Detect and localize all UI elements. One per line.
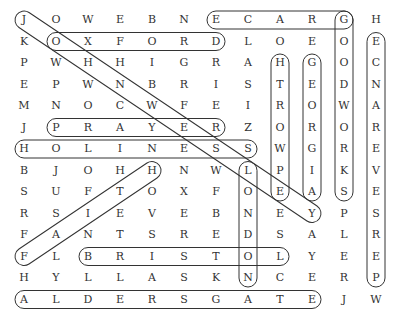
grid-cell[interactable]: E [300,76,324,94]
grid-cell[interactable]: S [204,140,228,158]
grid-cell[interactable]: R [140,291,164,309]
grid-cell[interactable]: W [140,97,164,115]
grid-cell[interactable]: R [300,11,324,29]
grid-cell[interactable]: O [268,119,292,137]
grid-cell[interactable]: F [108,33,132,51]
grid-cell[interactable]: E [108,11,132,29]
grid-cell[interactable]: K [204,269,228,287]
grid-cell[interactable]: A [364,97,388,115]
grid-cell[interactable]: T [268,76,292,94]
grid-cell[interactable]: T [108,183,132,201]
grid-cell[interactable]: F [76,183,100,201]
grid-cell[interactable]: R [172,33,196,51]
grid-cell[interactable]: H [108,54,132,72]
grid-cell[interactable]: Y [140,119,164,137]
grid-cell[interactable]: E [172,140,196,158]
grid-cell[interactable]: S [268,226,292,244]
grid-cell[interactable]: W [76,11,100,29]
grid-cell[interactable]: O [268,33,292,51]
grid-cell[interactable]: S [172,248,196,266]
grid-cell[interactable]: R [364,226,388,244]
grid-cell[interactable]: S [44,205,68,223]
grid-cell[interactable]: V [364,162,388,180]
grid-cell[interactable]: L [76,269,100,287]
grid-cell[interactable]: C [268,269,292,287]
grid-cell[interactable]: W [76,76,100,94]
grid-cell[interactable]: H [268,54,292,72]
grid-cell[interactable]: I [140,248,164,266]
grid-cell[interactable]: E [300,269,324,287]
grid-cell[interactable]: E [108,291,132,309]
grid-cell[interactable]: H [76,54,100,72]
grid-cell[interactable]: A [236,54,260,72]
grid-cell[interactable]: S [364,205,388,223]
grid-cell[interactable]: R [204,54,228,72]
grid-cell[interactable]: O [140,183,164,201]
grid-cell[interactable]: B [12,162,36,180]
grid-cell[interactable]: F [172,97,196,115]
grid-cell[interactable]: J [44,162,68,180]
grid-cell[interactable]: P [12,54,36,72]
grid-cell[interactable]: C [236,11,260,29]
grid-cell[interactable]: O [332,54,356,72]
grid-cell[interactable]: O [300,97,324,115]
grid-cell[interactable]: R [172,76,196,94]
grid-cell[interactable]: E [108,205,132,223]
grid-cell[interactable]: R [268,97,292,115]
grid-cell[interactable]: O [236,248,260,266]
grid-cell[interactable]: L [268,248,292,266]
grid-cell[interactable]: L [236,33,260,51]
grid-cell[interactable]: N [236,269,260,287]
grid-cell[interactable]: D [204,33,228,51]
grid-cell[interactable]: R [332,140,356,158]
grid-cell[interactable]: X [76,33,100,51]
grid-cell[interactable]: I [108,140,132,158]
grid-cell[interactable]: N [108,76,132,94]
grid-cell[interactable]: I [76,205,100,223]
grid-cell[interactable]: N [364,76,388,94]
grid-cell[interactable]: J [12,119,36,137]
grid-cell[interactable]: T [204,248,228,266]
grid-cell[interactable]: R [300,119,324,137]
grid-cell[interactable]: E [204,226,228,244]
grid-cell[interactable]: J [332,291,356,309]
grid-cell[interactable]: R [172,226,196,244]
grid-cell[interactable]: O [44,140,68,158]
grid-cell[interactable]: W [332,97,356,115]
grid-cell[interactable]: N [76,226,100,244]
grid-cell[interactable]: B [76,248,100,266]
grid-cell[interactable]: G [332,11,356,29]
grid-cell[interactable]: Z [236,119,260,137]
grid-cell[interactable]: N [172,11,196,29]
grid-cell[interactable]: H [12,269,36,287]
grid-cell[interactable]: O [44,11,68,29]
grid-cell[interactable]: S [140,226,164,244]
grid-cell[interactable]: H [364,11,388,29]
grid-cell[interactable]: O [236,183,260,201]
grid-cell[interactable]: E [364,248,388,266]
grid-cell[interactable]: Y [300,205,324,223]
grid-cell[interactable]: A [268,11,292,29]
grid-cell[interactable]: L [236,162,260,180]
grid-cell[interactable]: K [12,33,36,51]
grid-cell[interactable]: R [76,119,100,137]
grid-cell[interactable]: N [236,205,260,223]
grid-cell[interactable]: P [44,76,68,94]
grid-cell[interactable]: H [140,162,164,180]
grid-cell[interactable]: O [332,119,356,137]
grid-cell[interactable]: L [76,140,100,158]
grid-cell[interactable]: W [268,140,292,158]
grid-cell[interactable]: E [172,119,196,137]
grid-cell[interactable]: U [44,183,68,201]
grid-cell[interactable]: L [44,248,68,266]
grid-cell[interactable]: D [332,76,356,94]
grid-cell[interactable]: L [108,269,132,287]
grid-cell[interactable]: F [12,248,36,266]
grid-cell[interactable]: N [140,140,164,158]
grid-cell[interactable]: R [332,269,356,287]
grid-cell[interactable]: R [204,119,228,137]
grid-cell[interactable]: B [140,11,164,29]
grid-cell[interactable]: R [108,248,132,266]
grid-cell[interactable]: L [332,226,356,244]
grid-cell[interactable]: H [108,162,132,180]
